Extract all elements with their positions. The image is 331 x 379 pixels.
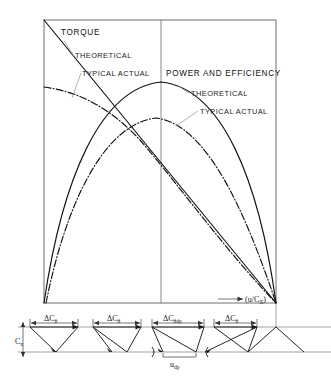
cx-arrowhead-up-icon [21, 322, 25, 327]
leader-torque-typical-actual [72, 73, 81, 98]
u-dp-label: udp [170, 360, 180, 370]
velocity-triangle-3-design-point: ΔCθdp udp [152, 314, 208, 370]
power-typical-actual-label: TYPICAL ACTUAL [200, 107, 268, 116]
x-axis-label: (u/CX) [245, 295, 266, 305]
triangle-1-delta-ctheta-label: ΔCθ [44, 314, 57, 324]
torque-theoretical-label: THEORETICAL [75, 51, 132, 60]
velocity-triangle-2: ΔCθ [93, 314, 141, 352]
velocity-triangle-4: ΔCθ [205, 314, 257, 353]
cx-label: Cx [15, 337, 23, 347]
turbine-performance-figure: TORQUE POWER AND EFFICIENCY THEORETICAL … [0, 0, 331, 379]
x-axis-arrowhead-icon [238, 297, 244, 302]
torque-typical-actual-label: TYPICAL ACTUAL [82, 69, 150, 78]
triangle-2-delta-ctheta-label: ΔCθ [107, 314, 120, 324]
cx-arrowhead-down-icon [21, 352, 25, 357]
torque-heading: TORQUE [61, 28, 100, 37]
leader-torque-theoretical [64, 41, 74, 56]
figure-canvas: TORQUE POWER AND EFFICIENCY THEORETICAL … [0, 0, 331, 379]
triangle-4-delta-ctheta-label: ΔCθ [225, 314, 238, 324]
velocity-triangle-1: ΔCθ [30, 314, 78, 352]
triangle-3-delta-ctheta-dp-label: ΔCθdp [163, 314, 182, 324]
leader-power-theoretical [178, 86, 189, 93]
power-efficiency-heading: POWER AND EFFICIENCY [166, 69, 281, 78]
leader-power-typical-actual [176, 111, 198, 126]
power-theoretical-label: THEORETICAL [191, 89, 248, 98]
